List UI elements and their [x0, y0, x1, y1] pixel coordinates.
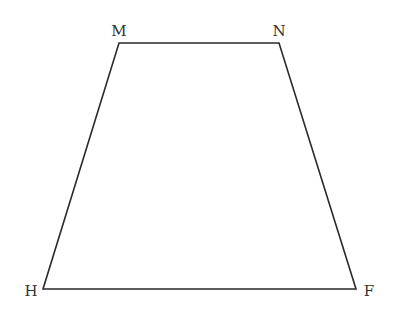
vertex-label-m: M [111, 22, 126, 40]
trapezoid-mnfh [43, 43, 356, 289]
vertex-label-f: F [364, 282, 374, 300]
trapezoid-diagram: M N F H [0, 0, 399, 310]
vertex-label-n: N [272, 22, 285, 40]
vertex-label-h: H [24, 282, 37, 300]
